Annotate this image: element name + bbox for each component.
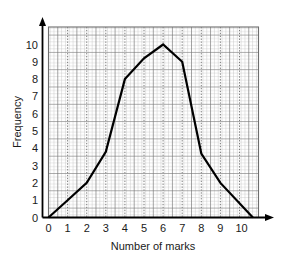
x-tick-labels: 0 1 2 3 4 5 6 7 8 9 10: [45, 222, 247, 234]
x-tick-7: 7: [179, 222, 185, 234]
x-tick-9: 9: [217, 222, 223, 234]
y-axis-arrow: [39, 17, 46, 26]
x-tick-6: 6: [160, 222, 166, 234]
y-tick-1: 1: [32, 194, 38, 206]
x-tick-10: 10: [235, 222, 247, 234]
y-tick-labels: 0 1 2 3 4 5 6 7 8 9 10: [26, 39, 38, 224]
chart-svg: 0 1 2 3 4 5 6 7 8 9 10 0 1 2 3 4 5 6 7 8…: [0, 0, 287, 262]
y-tick-5: 5: [32, 125, 38, 137]
y-tick-0: 0: [32, 212, 38, 224]
x-tick-0: 0: [45, 222, 51, 234]
y-tick-8: 8: [32, 73, 38, 85]
y-tick-10: 10: [26, 39, 38, 51]
y-tick-7: 7: [32, 90, 38, 102]
x-tick-2: 2: [84, 222, 90, 234]
x-tick-1: 1: [65, 222, 71, 234]
x-tick-3: 3: [103, 222, 109, 234]
y-tick-9: 9: [32, 56, 38, 68]
frequency-polygon-chart: 0 1 2 3 4 5 6 7 8 9 10 0 1 2 3 4 5 6 7 8…: [0, 0, 287, 262]
x-axis-title: Number of marks: [111, 240, 196, 252]
y-tick-4: 4: [32, 142, 38, 154]
x-axis-arrow: [265, 214, 274, 221]
x-tick-8: 8: [198, 222, 204, 234]
x-tick-4: 4: [122, 222, 128, 234]
y-axis-title: Frequency: [11, 96, 23, 148]
y-tick-3: 3: [32, 160, 38, 172]
x-tick-5: 5: [141, 222, 147, 234]
y-tick-2: 2: [32, 177, 38, 189]
y-tick-6: 6: [32, 108, 38, 120]
